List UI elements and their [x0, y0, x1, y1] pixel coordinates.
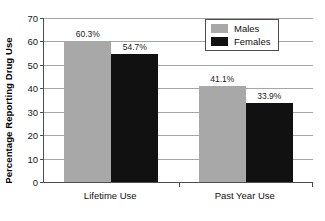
y-axis-tick-label: 10 — [14, 153, 42, 164]
y-axis-tick-mark — [40, 88, 44, 89]
bar-value-label: 60.3% — [76, 29, 100, 39]
legend-item: Males — [211, 23, 270, 34]
y-axis-tick-mark — [40, 41, 44, 42]
x-axis-category-label: Lifetime Use — [84, 190, 137, 201]
y-axis-tick-mark — [40, 135, 44, 136]
bar-value-label: 54.7% — [123, 42, 147, 52]
y-axis-tick-mark — [40, 18, 44, 19]
y-axis-tick-label: 40 — [14, 83, 42, 94]
y-axis-tick-mark — [40, 159, 44, 160]
x-axis-tick-mark — [312, 182, 313, 187]
bar — [111, 54, 158, 182]
legend: MalesFemales — [205, 19, 279, 51]
legend-swatch — [211, 37, 228, 46]
y-axis-tick-label: 0 — [14, 177, 42, 188]
y-axis-tick-label: 30 — [14, 106, 42, 117]
y-axis-tick-label: 60 — [14, 36, 42, 47]
y-axis-tick-label: 20 — [14, 130, 42, 141]
bar — [199, 86, 246, 182]
y-axis-tick-labels: 010203040506070 — [14, 0, 42, 221]
y-axis-tick-mark — [40, 65, 44, 66]
legend-swatch — [211, 24, 228, 33]
y-axis-tick-label: 50 — [14, 59, 42, 70]
y-axis-tick-label: 70 — [14, 13, 42, 24]
bar-value-label: 41.1% — [210, 74, 234, 84]
bar — [246, 103, 293, 182]
x-axis-tick-mark — [179, 182, 180, 187]
bar — [64, 41, 111, 182]
x-axis-category-label: Past Year Use — [215, 190, 275, 201]
y-axis-tick-mark — [40, 112, 44, 113]
y-axis-tick-mark — [40, 182, 44, 183]
legend-item: Females — [211, 36, 270, 47]
legend-label: Females — [234, 36, 270, 47]
bar-chart: Percentage Reporting Drug Use 0102030405… — [0, 0, 325, 221]
legend-label: Males — [234, 23, 259, 34]
bar-value-label: 33.9% — [257, 91, 281, 101]
